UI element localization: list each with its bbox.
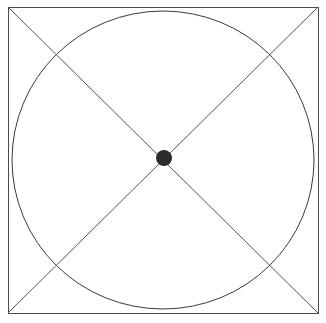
figure-canvas [0,0,326,323]
geometry-figure-svg [0,0,326,323]
center-point-dot [156,150,172,166]
